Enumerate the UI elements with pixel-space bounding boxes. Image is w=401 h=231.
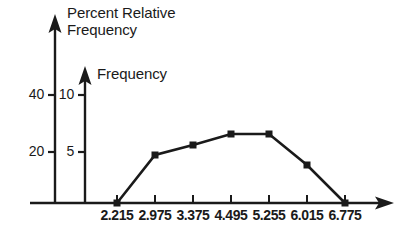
secondary-y-axis [78, 66, 92, 203]
data-point-marker [266, 131, 273, 138]
data-point-marker [114, 200, 121, 207]
frequency-polygon-chart: Percent Relative Frequency Frequency 40 … [0, 0, 401, 231]
primary-y-tick-label-20: 20 [18, 143, 44, 159]
x-tick-label-7: 6.775 [322, 207, 368, 223]
primary-y-axis-title: Percent Relative Frequency [67, 5, 175, 39]
chart-plot-area [0, 0, 401, 231]
data-point-marker [228, 131, 235, 138]
secondary-y-tick-label-5: 5 [58, 143, 74, 159]
secondary-y-axis-title: Frequency [97, 66, 167, 83]
primary-y-axis [48, 14, 62, 203]
data-point-marker [304, 162, 311, 169]
frequency-polygon-line [117, 134, 345, 203]
primary-y-tick-label-40: 40 [18, 86, 44, 102]
data-point-marker [342, 200, 349, 207]
data-point-marker [152, 152, 159, 159]
data-point-marker [190, 142, 197, 149]
secondary-y-tick-label-10: 10 [58, 86, 74, 102]
